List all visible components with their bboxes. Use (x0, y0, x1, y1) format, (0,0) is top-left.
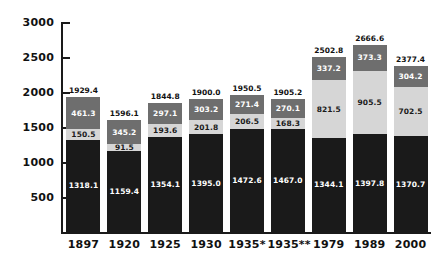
segment-value-label: 168.3 (276, 119, 300, 128)
segment-value-label: 337.2 (317, 64, 341, 73)
bar-segment-top: 297.1 (148, 103, 182, 124)
bar-segment-middle: 206.5 (230, 114, 264, 128)
segment-value-label: 373.3 (358, 53, 382, 62)
bar-segment-top: 271.4 (230, 95, 264, 114)
bar-segment-middle: 201.8 (189, 120, 223, 134)
segment-value-label: 461.3 (71, 109, 95, 118)
bar-segment-top: 270.1 (271, 99, 305, 118)
bar-segment-bottom: 1397.8 (353, 134, 387, 232)
bar-segment-middle: 168.3 (271, 118, 305, 130)
segment-value-label: 1467.0 (273, 176, 303, 185)
bar-segment-top: 345.2 (107, 120, 141, 144)
bar-stack[interactable]: 345.291.51159.41596.1 (107, 120, 141, 232)
stacked-bar-chart: 50010001500200025003000 461.3150.51318.1… (0, 0, 439, 266)
segment-value-label: 1159.4 (110, 187, 140, 196)
x-axis-line (61, 232, 431, 234)
y-axis-tick-label: 2000 (0, 86, 54, 99)
x-axis-label: 1920 (104, 238, 145, 251)
bar-stack[interactable]: 297.1193.61354.11844.8 (148, 103, 182, 232)
bar-segment-bottom: 1467.0 (271, 129, 305, 232)
bar-stack[interactable]: 373.3905.51397.82666.6 (353, 45, 387, 232)
segment-value-label: 821.5 (317, 105, 341, 114)
bar-stack[interactable]: 337.2821.51344.12502.8 (312, 57, 346, 232)
x-axis-label: 1930 (186, 238, 227, 251)
bar-segment-top: 304.2 (394, 66, 428, 87)
bar-segment-top: 373.3 (353, 45, 387, 71)
segment-value-label: 1318.1 (69, 181, 99, 190)
segment-value-label: 1344.1 (314, 180, 344, 189)
bar-segment-bottom: 1472.6 (230, 129, 264, 232)
bar-stack[interactable]: 304.2702.51370.72377.4 (394, 66, 428, 232)
y-axis-tick-label: 1000 (0, 156, 54, 169)
bar-total-label: 1596.1 (110, 109, 139, 118)
bar-segment-bottom: 1395.0 (189, 134, 223, 232)
bar-total-label: 1950.5 (233, 84, 262, 93)
segment-value-label: 345.2 (112, 128, 136, 137)
x-axis-label: 1979 (308, 238, 349, 251)
plot-area: 461.3150.51318.11929.4345.291.51159.4159… (63, 22, 431, 232)
bar-segment-middle: 821.5 (312, 80, 346, 138)
segment-value-label: 1354.1 (150, 180, 180, 189)
bar-stack[interactable]: 270.1168.31467.01905.2 (271, 99, 305, 232)
bar-total-label: 2666.6 (355, 34, 384, 43)
bar-stack[interactable]: 303.2201.81395.01900.0 (189, 99, 223, 232)
bar-segment-middle: 702.5 (394, 87, 428, 136)
segment-value-label: 1397.8 (355, 179, 385, 188)
bar-total-label: 2502.8 (314, 46, 343, 55)
x-axis-label: 1925 (145, 238, 186, 251)
bar-segment-bottom: 1370.7 (394, 136, 428, 232)
bar-segment-bottom: 1344.1 (312, 138, 346, 232)
segment-value-label: 702.5 (398, 107, 422, 116)
x-axis-label: 1897 (63, 238, 104, 251)
bar-stack[interactable]: 271.4206.51472.61950.5 (230, 95, 264, 232)
y-axis-tick-label: 500 (0, 191, 54, 204)
segment-value-label: 905.5 (358, 98, 382, 107)
bar-segment-bottom: 1354.1 (148, 137, 182, 232)
x-axis-label: 1935** (267, 238, 308, 251)
bar-total-label: 1929.4 (69, 86, 98, 95)
x-axis-label: 1989 (349, 238, 390, 251)
bar-stack[interactable]: 461.3150.51318.11929.4 (66, 97, 100, 232)
bar-segment-bottom: 1159.4 (107, 151, 141, 232)
segment-value-label: 201.8 (194, 123, 218, 132)
bar-total-label: 1900.0 (192, 88, 221, 97)
segment-value-label: 150.5 (71, 130, 95, 139)
bar-segment-top: 461.3 (66, 97, 100, 129)
y-axis-tick-label: 1500 (0, 121, 54, 134)
bar-segment-bottom: 1318.1 (66, 140, 100, 232)
segment-value-label: 304.2 (398, 72, 422, 81)
bar-segment-middle: 905.5 (353, 71, 387, 134)
x-axis-label: 2000 (390, 238, 431, 251)
bar-segment-middle: 193.6 (148, 124, 182, 138)
segment-value-label: 193.6 (153, 126, 177, 135)
bar-total-label: 2377.4 (396, 55, 425, 64)
segment-value-label: 206.5 (235, 117, 259, 126)
segment-value-label: 1370.7 (396, 180, 426, 189)
segment-value-label: 1472.6 (232, 176, 262, 185)
segment-value-label: 271.4 (235, 100, 259, 109)
x-axis-label: 1935* (227, 238, 268, 251)
segment-value-label: 303.2 (194, 105, 218, 114)
bar-total-label: 1844.8 (151, 92, 180, 101)
segment-value-label: 297.1 (153, 109, 177, 118)
bar-segment-middle: 150.5 (66, 129, 100, 140)
bar-total-label: 1905.2 (273, 88, 302, 97)
segment-value-label: 1395.0 (191, 179, 221, 188)
bar-segment-top: 303.2 (189, 99, 223, 120)
y-axis-tick-label: 2500 (0, 51, 54, 64)
bar-segment-top: 337.2 (312, 57, 346, 81)
segment-value-label: 270.1 (276, 104, 300, 113)
y-axis-tick-label: 3000 (0, 16, 54, 29)
